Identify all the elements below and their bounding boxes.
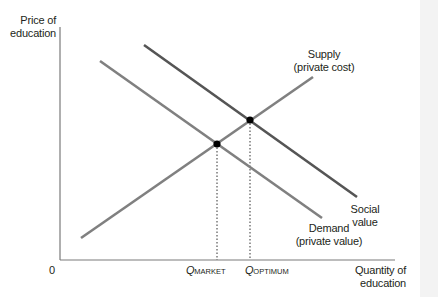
supply-label-line1: Supply [284, 48, 364, 61]
supply-curve [81, 77, 313, 238]
market-equilibrium-point [213, 140, 220, 147]
demand-label-line2: (private value) [288, 235, 370, 248]
y-axis-label-line2: education [0, 27, 56, 40]
social-value-label-line1: Social [345, 203, 385, 216]
demand-curve [100, 61, 322, 218]
q-optimum-label: QOPTIMUM [245, 264, 289, 278]
q-market-subscript: MARKET [194, 267, 225, 276]
origin-label: 0 [49, 264, 55, 277]
q-market-label: QMARKET [186, 264, 226, 278]
q-optimum-subscript: OPTIMUM [253, 267, 288, 276]
x-axis-label: Quantity of education [340, 264, 406, 290]
y-axis-label: Price of education [0, 14, 56, 40]
supply-label: Supply (private cost) [284, 48, 364, 74]
demand-label-line1: Demand [288, 222, 370, 235]
optimum-point [246, 116, 253, 123]
supply-label-line2: (private cost) [284, 61, 364, 74]
x-axis-label-line2: education [340, 277, 406, 290]
education-externality-diagram [0, 0, 438, 297]
x-axis-label-line1: Quantity of [340, 264, 406, 277]
y-axis-label-line1: Price of [0, 14, 56, 27]
demand-label: Demand (private value) [288, 222, 370, 248]
